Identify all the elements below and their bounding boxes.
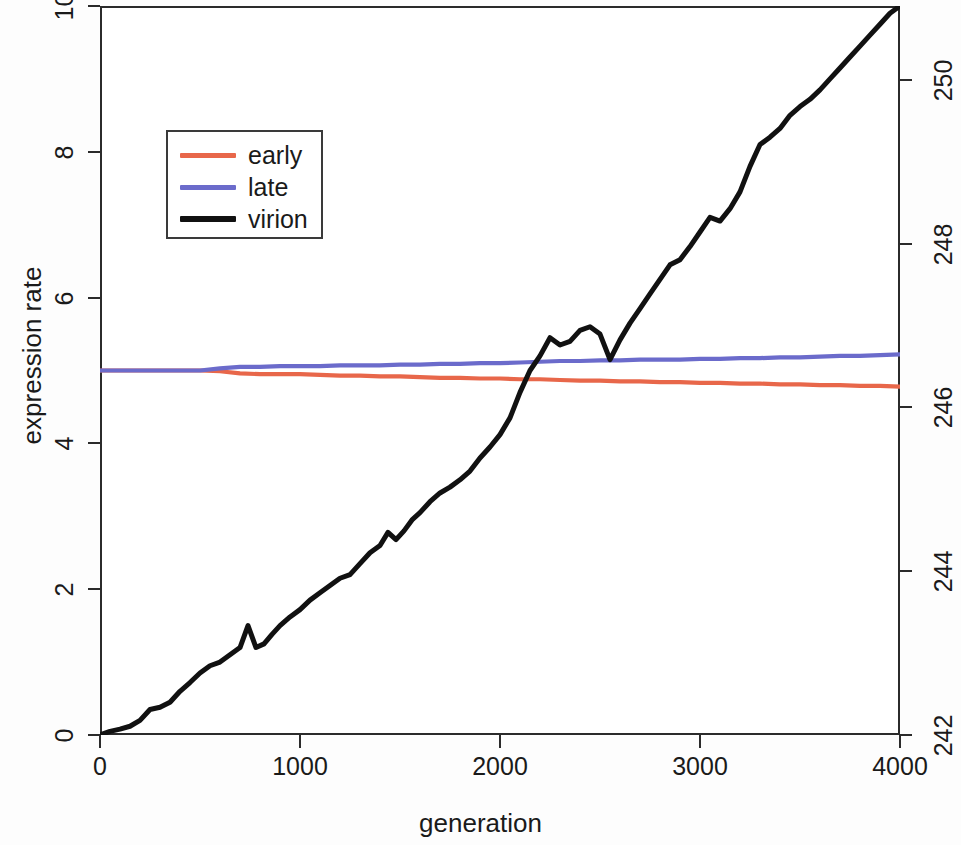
legend-label-late: late (248, 175, 288, 200)
x-tick-mark (99, 735, 101, 748)
y2-tick-mark (900, 570, 912, 572)
y-tick-mark (88, 151, 100, 153)
x-axis-title: generation (0, 808, 961, 839)
chart-figure: 024681024224424624825001000200030004000 … (0, 0, 961, 845)
legend-label-virion: virion (248, 207, 308, 232)
y2-tick-mark (900, 243, 912, 245)
x-tick-label: 2000 (440, 752, 560, 781)
x-tick-label: 1000 (240, 752, 360, 781)
y2-tick-label: 250 (929, 45, 958, 115)
legend-item-late: late (168, 172, 325, 202)
chart-legend: early late virion (166, 130, 323, 239)
y-tick-label: 8 (50, 117, 79, 187)
y2-tick-mark (900, 406, 912, 408)
y2-tick-label: 244 (929, 537, 958, 607)
legend-item-early: early (168, 140, 325, 170)
y2-tick-label: 246 (929, 373, 958, 443)
y-tick-mark (88, 442, 100, 444)
x-tick-label: 3000 (640, 752, 760, 781)
y2-tick-mark (900, 79, 912, 81)
legend-item-virion: virion (168, 204, 325, 234)
plot-curves (100, 6, 900, 735)
y2-tick-mark (900, 734, 912, 736)
x-tick-mark (299, 735, 301, 748)
y-tick-label: 10 (50, 0, 79, 42)
y-tick-label: 6 (50, 263, 79, 333)
y-axis-title: expression rate (17, 236, 48, 476)
x-tick-mark (499, 735, 501, 748)
legend-swatch-early (180, 153, 236, 158)
x-tick-mark (699, 735, 701, 748)
series-line-early (100, 371, 900, 387)
y-tick-mark (88, 297, 100, 299)
x-tick-label: 0 (40, 752, 160, 781)
x-tick-mark (899, 735, 901, 748)
legend-label-early: early (248, 143, 302, 168)
y-tick-label: 2 (50, 555, 79, 625)
legend-swatch-late (180, 185, 236, 190)
series-line-late (100, 354, 900, 370)
y-tick-mark (88, 588, 100, 590)
y2-tick-label: 248 (929, 209, 958, 279)
y-tick-label: 4 (50, 409, 79, 479)
x-tick-label: 4000 (840, 752, 960, 781)
legend-swatch-virion (180, 216, 236, 222)
y-tick-mark (88, 5, 100, 7)
